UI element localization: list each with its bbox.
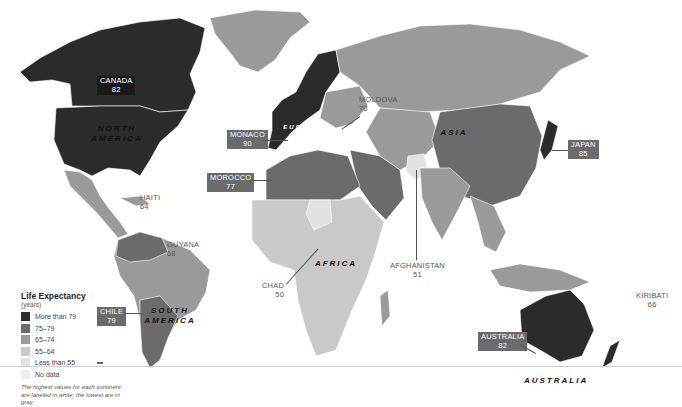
callout-value: 68: [167, 250, 199, 259]
legend-swatch: [21, 347, 30, 356]
region-southeast-asia: [470, 196, 506, 252]
region-north-africa: [266, 150, 360, 200]
region-mexico: [64, 170, 128, 238]
callout-kiribati: KIRIBATI 66: [633, 291, 671, 310]
leader-japan: [552, 150, 568, 151]
callout-moldova: MOLDOVA 70: [356, 95, 400, 114]
callout-guyana: GUYANA 68: [164, 240, 202, 259]
leader-afghanistan: [416, 170, 417, 260]
callout-value: 64: [140, 203, 160, 212]
continent-label-south-america: SOUTH AMERICA: [140, 306, 200, 326]
callout-value: 82: [481, 342, 524, 351]
region-japan: [540, 120, 558, 160]
leader-morocco: [250, 180, 272, 181]
continent-label-australia: AUSTRALIA: [524, 376, 584, 386]
legend-label: More than 79: [35, 313, 76, 320]
legend-swatch: [21, 312, 30, 321]
legend-swatch: [21, 370, 30, 379]
region-indonesia: [490, 264, 590, 292]
legend-swatch: [21, 324, 30, 333]
region-greenland: [210, 10, 310, 72]
callout-value: 90: [230, 140, 265, 149]
leader-monaco: [262, 140, 288, 141]
callout-value: 50: [262, 291, 284, 300]
legend-note: The highest values for each continent ar…: [21, 384, 121, 407]
continent-label-africa: AFRICA: [306, 259, 366, 269]
legend-swatch: [21, 335, 30, 344]
callout-australia-text: AUSTRALIA 82: [478, 332, 527, 351]
legend-subtitle: (years): [21, 301, 131, 308]
callout-haiti: HAITI 64: [137, 193, 163, 212]
legend-item: 75–79: [21, 323, 131, 335]
continent-label-asia: ASIA: [434, 128, 474, 138]
callout-value: 70: [359, 105, 397, 114]
legend-label: 55–64: [35, 348, 54, 355]
callout-afghanistan: AFGHANISTAN 51: [387, 261, 448, 280]
legend-label: 75–79: [35, 325, 54, 332]
callout-canada: CANADA 82: [97, 76, 135, 95]
callout-value: 85: [571, 150, 596, 159]
callout-value: 51: [390, 271, 445, 280]
callout-chad: CHAD 50: [259, 281, 287, 300]
legend-item: More than 79: [21, 311, 131, 323]
legend-label: 65–74: [35, 336, 54, 343]
legend-label: No data: [35, 371, 60, 378]
legend-item: No data: [21, 369, 131, 381]
callout-value: 82: [100, 86, 132, 95]
legend: Life Expectancy (years) More than 79 75–…: [21, 291, 131, 407]
callout-morocco: MOROCCO 77: [207, 173, 254, 192]
legend-title: Life Expectancy: [21, 291, 131, 301]
callout-value: 66: [636, 301, 668, 310]
region-new-zealand: [602, 340, 620, 368]
region-madagascar: [380, 290, 390, 326]
callout-japan: JAPAN 85: [568, 140, 599, 159]
legend-item: 55–64: [21, 346, 131, 358]
region-canada: [20, 18, 205, 112]
continent-label-europe: EUROPE: [282, 122, 322, 132]
legend-item: 65–74: [21, 334, 131, 346]
callout-value: 77: [210, 183, 251, 192]
bottom-rule: [0, 366, 682, 367]
continent-label-north-america: NORTH AMERICA: [82, 124, 152, 144]
